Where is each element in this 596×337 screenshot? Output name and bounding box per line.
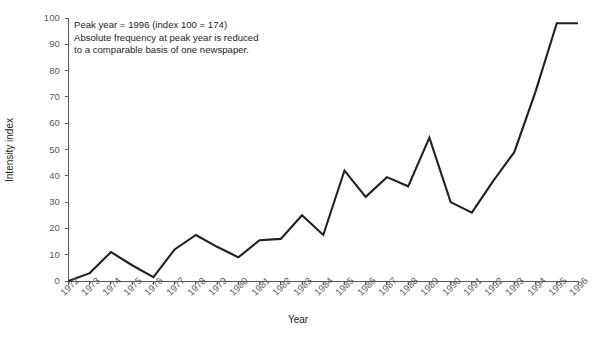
annotation-line-1: Peak year = 1996 (index 100 = 174) [74, 19, 259, 32]
y-axis-tick-label: 0 [22, 275, 60, 286]
y-axis-tick-label: 50 [22, 144, 60, 155]
y-axis-tick-label: 40 [22, 170, 60, 181]
chart-figure: 0102030405060708090100 19721973197419751… [0, 0, 596, 337]
y-axis-tick-label: 100 [22, 12, 60, 23]
y-axis-tick-label: 30 [22, 196, 60, 207]
y-axis-tick-label: 20 [22, 222, 60, 233]
data-series-line [69, 23, 579, 281]
y-axis-title: Intensity index [4, 90, 15, 210]
annotation-line-2: Absolute frequency at peak year is reduc… [74, 32, 259, 45]
y-axis-ticks [65, 18, 69, 281]
y-axis-tick-label: 60 [22, 117, 60, 128]
chart-annotation: Peak year = 1996 (index 100 = 174) Absol… [74, 19, 259, 57]
annotation-line-3: to a comparable basis of one newspaper. [74, 44, 259, 57]
axes [69, 18, 579, 282]
y-axis-tick-label: 10 [22, 249, 60, 260]
y-axis-tick-label: 70 [22, 91, 60, 102]
y-axis-tick-label: 90 [22, 38, 60, 49]
x-axis-title: Year [0, 314, 596, 325]
y-axis-tick-label: 80 [22, 65, 60, 76]
